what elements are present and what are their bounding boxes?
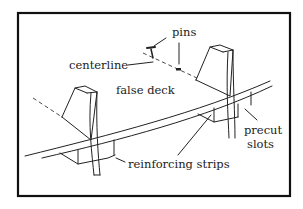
label-false-deck: false deck xyxy=(116,83,176,97)
label-slots: slots xyxy=(247,137,274,151)
diagram: pins centerline false deck precut slots … xyxy=(0,0,303,209)
pin-2 xyxy=(176,68,181,71)
label-reinforcing-strips: reinforcing strips xyxy=(128,157,230,171)
label-pins: pins xyxy=(172,25,196,39)
label-precut: precut xyxy=(244,123,283,137)
label-centerline: centerline xyxy=(69,58,128,72)
